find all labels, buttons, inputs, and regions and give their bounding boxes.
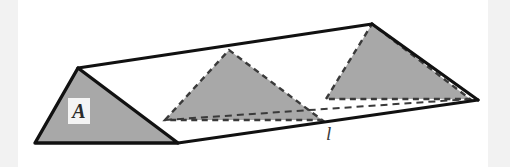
prism-diagram-svg <box>0 0 510 167</box>
axis-line-label-l: l <box>326 124 331 143</box>
geometry-figure: A l <box>0 0 510 167</box>
cross-section-label-a: A <box>68 98 90 124</box>
triangle-middle-fill <box>165 50 322 120</box>
